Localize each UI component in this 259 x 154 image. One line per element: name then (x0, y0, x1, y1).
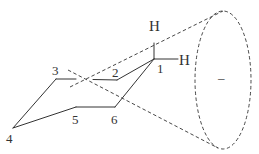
bond-c1-c2 (117, 59, 154, 80)
cyclohexane-cone-diagram: 1 2 3 4 5 6 H H – (0, 0, 259, 154)
minus-sign-icon: – (217, 70, 225, 85)
atom-label-c2: 2 (112, 65, 119, 80)
atom-label-c3: 3 (52, 63, 59, 78)
diagram-canvas: 1 2 3 4 5 6 H H – (0, 0, 259, 154)
atom-label-c1: 1 (157, 61, 164, 76)
atom-label-c4: 4 (6, 131, 13, 146)
bond-c6-c1 (115, 59, 154, 107)
atom-label-c5: 5 (72, 112, 79, 127)
cone-upper-edge (70, 11, 223, 87)
hydrogen-label-top: H (149, 18, 160, 34)
hydrogen-label-right: H (179, 52, 190, 68)
atom-label-c6: 6 (111, 112, 118, 127)
cone-lower-edge (68, 70, 218, 148)
